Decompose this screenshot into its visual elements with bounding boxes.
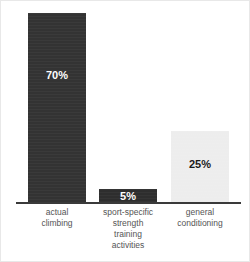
category-label-line: general <box>160 207 240 218</box>
x-axis-baseline <box>16 202 241 204</box>
bar-value-label-actual-climbing: 70% <box>28 70 86 81</box>
bar-value-label-general-conditioning: 25% <box>171 159 229 170</box>
bar-value-label-sport-specific-strength-training-activities: 5% <box>99 191 157 202</box>
category-label-line: activities <box>88 240 168 251</box>
bar-chart: 70% 5% 25% actual climbing sport-specifi… <box>0 0 250 262</box>
category-label-general-conditioning: general conditioning <box>160 207 240 229</box>
category-label-line: training <box>88 229 168 240</box>
category-label-line: strength <box>88 218 168 229</box>
bar-actual-climbing: 70% <box>28 13 86 204</box>
category-label-line: conditioning <box>160 218 240 229</box>
plot-area: 70% 5% 25% <box>1 1 250 204</box>
category-label-actual-climbing: actual climbing <box>17 207 97 229</box>
category-label-line: climbing <box>17 218 97 229</box>
category-label-sport-specific-strength-training-activities: sport-specific strength training activit… <box>88 207 168 251</box>
category-label-line: sport-specific <box>88 207 168 218</box>
category-label-line: actual <box>17 207 97 218</box>
bar-general-conditioning: 25% <box>171 131 229 204</box>
category-labels: actual climbing sport-specific strength … <box>1 207 250 262</box>
